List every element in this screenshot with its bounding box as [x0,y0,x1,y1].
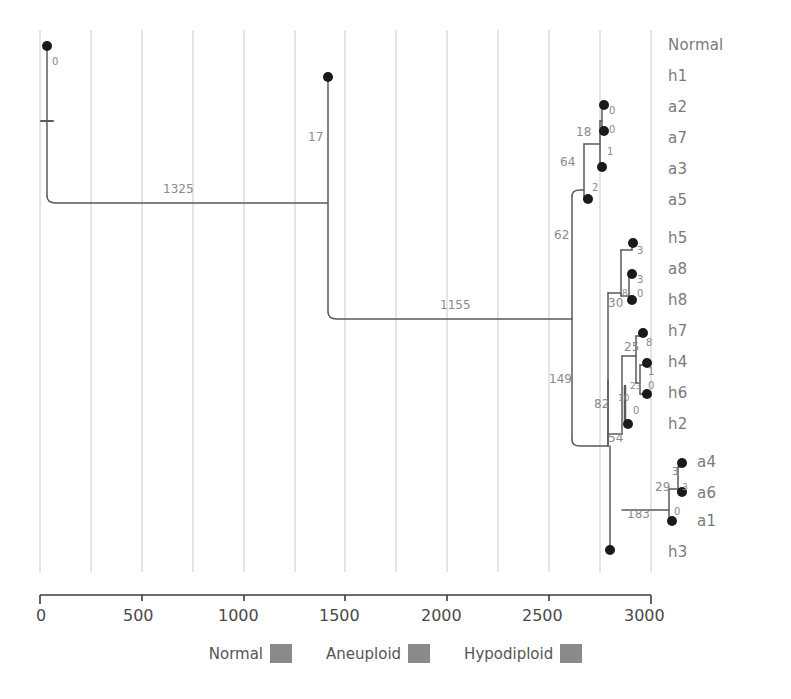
legend-item-normal: Normal [209,644,292,663]
tip-label-h4: h4 [668,353,687,371]
gridlines [40,30,651,572]
branch-label-a3: 1 [607,146,613,157]
tree-nodes [42,41,687,555]
tip-label-a4: a4 [697,453,716,471]
axis-label-1000: 1000 [218,606,259,625]
tip-label-h7: h7 [668,322,687,340]
node-normal [42,41,52,51]
node-h3 [605,545,615,555]
axis-label-0: 0 [36,606,46,625]
branch-label-a2: 0 [609,105,615,116]
branch-label-8: 8 [622,288,628,298]
legend-label-hypodiploid: Hypodiploid [464,645,553,663]
branch-label-183: 183 [627,507,650,521]
tip-label-a7: a7 [668,129,687,147]
branch-1155 [328,312,572,319]
axis-label-500: 500 [123,606,154,625]
branch-label-17: 17 [308,130,323,144]
tip-label-h1: h1 [668,67,687,85]
branch-root-1325 [47,196,328,203]
axis-label-2500: 2500 [522,606,563,625]
branch-label-54: 54 [608,431,623,445]
tip-label-h8: h8 [668,291,687,309]
branch-label-82: 82 [594,397,609,411]
branch-label-h8: 0 [637,288,643,299]
branch-label-a7: 0 [609,124,615,135]
tip-label-a8: a8 [668,260,687,278]
node-a3 [597,162,607,172]
x-axis [40,595,651,604]
tip-label-h3: h3 [668,543,687,561]
branch-label-62: 62 [554,228,569,242]
node-h2 [623,419,633,429]
branch-label-h4: 1 [648,366,654,377]
legend: Normal Aneuploid Hypodiploid [0,644,791,663]
tip-label-a2: a2 [668,98,687,116]
legend-swatch-aneuploid [408,644,430,663]
branch-label-h2: 0 [633,405,639,416]
node-h8 [627,295,637,305]
branch-label-25: 25 [624,340,639,354]
tree-branches [41,46,681,550]
branch-62-to-64 [572,190,584,196]
legend-swatch-normal [270,644,292,663]
node-a7 [599,126,609,136]
branch-label-10: 10 [618,393,629,403]
branch-149-to-82 [572,440,608,446]
axis-label-1500: 1500 [319,606,360,625]
node-a4 [677,458,687,468]
branch-label-64: 64 [560,155,575,169]
axis-label-2000: 2000 [421,606,462,625]
tip-label-a6: a6 [697,484,716,502]
legend-swatch-hypodiploid [560,644,582,663]
branch-label-1325: 1325 [163,182,194,196]
node-h1 [323,72,333,82]
legend-label-aneuploid: Aneuploid [326,645,401,663]
tip-label-a1: a1 [697,512,716,530]
branch-label-root-tick: 0 [52,56,58,67]
branch-label-29: 29 [655,480,670,494]
branch-label-h5: 3 [637,245,643,256]
node-a8 [627,269,637,279]
node-a1 [667,516,677,526]
legend-item-hypodiploid: Hypodiploid [464,644,582,663]
tip-label-h5: h5 [668,229,687,247]
tip-label-a5: a5 [668,191,687,209]
branch-label-a4: 3 [672,466,678,477]
branch-label-23: 23 [630,381,641,391]
branch-label-18: 18 [576,125,591,139]
legend-item-aneuploid: Aneuploid [326,644,430,663]
tip-label-normal: Normal [668,36,723,54]
branch-label-149: 149 [549,372,572,386]
node-a2 [599,100,609,110]
node-a5 [583,194,593,204]
branch-label-h6: 0 [648,380,654,391]
axis-label-3000: 3000 [624,606,665,625]
tip-label-a3: a3 [668,160,687,178]
branch-label-a8: 3 [637,274,643,285]
branch-label-a5: 2 [592,182,598,193]
branch-label-30: 30 [608,296,623,310]
branch-label-h7: 8 [646,337,652,348]
legend-label-normal: Normal [209,645,263,663]
tip-label-h2: h2 [668,415,687,433]
tip-label-h6: h6 [668,384,687,402]
branch-label-a1: 0 [674,506,680,517]
branch-label-a6: 3 [682,482,688,492]
branch-label-1155: 1155 [440,298,471,312]
